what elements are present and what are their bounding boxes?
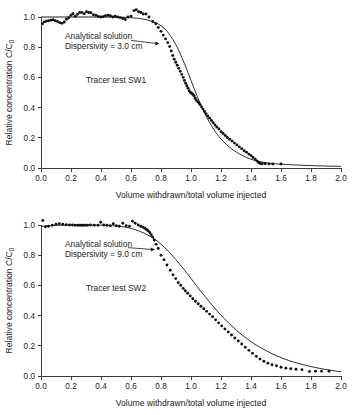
tracer-test-figure: 0.00.20.40.60.81.01.21.41.61.82.00.00.20… bbox=[0, 0, 362, 415]
data-point bbox=[271, 163, 274, 166]
svg-text:Relative concentration C/C0: Relative concentration C/C0 bbox=[4, 39, 15, 145]
data-point bbox=[251, 352, 254, 355]
data-point bbox=[109, 224, 112, 227]
data-point bbox=[214, 318, 217, 321]
y-tick-label: 0.2 bbox=[24, 342, 36, 351]
data-point bbox=[233, 142, 236, 145]
data-point bbox=[308, 370, 311, 373]
data-point bbox=[185, 84, 188, 87]
data-point bbox=[244, 346, 247, 349]
data-point bbox=[128, 225, 131, 228]
x-tick-label: 0.6 bbox=[125, 382, 137, 391]
data-point bbox=[160, 254, 163, 257]
data-point bbox=[205, 112, 208, 115]
data-point bbox=[102, 224, 105, 227]
data-point bbox=[145, 13, 148, 16]
data-point bbox=[176, 64, 179, 67]
data-point bbox=[68, 224, 71, 227]
data-point bbox=[83, 12, 86, 15]
x-tick-label: 1.6 bbox=[275, 174, 287, 183]
data-point bbox=[119, 16, 122, 19]
x-tick-label: 0.8 bbox=[155, 382, 167, 391]
x-tick-label: 0.0 bbox=[35, 382, 47, 391]
data-point bbox=[280, 163, 283, 166]
data-point bbox=[223, 327, 226, 330]
chart-panel-sw2: 0.00.20.40.60.81.01.21.41.61.82.00.00.20… bbox=[0, 208, 362, 415]
data-point bbox=[215, 125, 218, 128]
data-point bbox=[186, 292, 189, 295]
x-tick-label: 0.8 bbox=[155, 174, 167, 183]
data-point bbox=[237, 340, 240, 343]
y-tick-label: 0.6 bbox=[24, 73, 36, 82]
data-point bbox=[139, 11, 142, 14]
data-point bbox=[130, 15, 133, 18]
data-point bbox=[112, 222, 115, 225]
data-point bbox=[182, 76, 185, 79]
y-tick-label: 0.0 bbox=[24, 164, 36, 173]
data-point bbox=[238, 145, 241, 148]
y-axis-ticks: 0.00.20.40.60.81.0 bbox=[24, 221, 41, 381]
data-point bbox=[243, 149, 246, 152]
data-point bbox=[184, 82, 187, 85]
data-point bbox=[58, 222, 61, 225]
data-point bbox=[121, 17, 124, 20]
data-point bbox=[41, 219, 44, 222]
data-point bbox=[99, 221, 102, 224]
data-point bbox=[148, 16, 151, 19]
x-tick-label: 1.0 bbox=[185, 382, 197, 391]
y-tick-label: 1.0 bbox=[24, 221, 36, 230]
data-point bbox=[172, 273, 175, 276]
annotation-text: Dispersivity = 9.0 cm bbox=[65, 249, 143, 259]
data-point bbox=[151, 236, 154, 239]
data-point bbox=[177, 281, 180, 284]
data-point bbox=[177, 67, 180, 70]
data-point bbox=[118, 225, 121, 228]
data-point bbox=[174, 61, 177, 64]
data-point bbox=[55, 223, 58, 226]
annotation-text: Analytical solution bbox=[65, 239, 132, 249]
y-tick-label: 0.0 bbox=[24, 372, 36, 381]
x-axis-title: Volume withdrawn/total volume injected bbox=[116, 190, 267, 200]
y-tick-label: 0.8 bbox=[24, 251, 36, 260]
data-point bbox=[74, 15, 77, 18]
data-point bbox=[206, 114, 209, 117]
data-point bbox=[61, 223, 64, 226]
x-tick-label: 1.6 bbox=[275, 382, 287, 391]
y-axis-title: Relative concentration C/C0 bbox=[4, 39, 15, 145]
annotation-text: Tracer test SW2 bbox=[86, 283, 147, 293]
data-point bbox=[328, 370, 331, 373]
x-tick-label: 0.2 bbox=[65, 382, 77, 391]
data-point bbox=[71, 224, 74, 227]
x-tick-label: 0.2 bbox=[65, 174, 77, 183]
data-point bbox=[199, 305, 202, 308]
data-point bbox=[295, 368, 298, 371]
data-point bbox=[191, 297, 194, 300]
data-point bbox=[205, 310, 208, 313]
data-point bbox=[164, 37, 167, 40]
data-point bbox=[255, 355, 258, 358]
leader-arrowhead bbox=[151, 247, 155, 251]
data-point bbox=[44, 225, 47, 228]
data-point bbox=[240, 343, 243, 346]
data-point bbox=[212, 121, 215, 124]
data-point bbox=[240, 147, 243, 150]
data-point bbox=[76, 13, 79, 16]
data-point bbox=[89, 224, 92, 227]
x-tick-label: 1.8 bbox=[305, 174, 317, 183]
x-tick-label: 1.0 bbox=[185, 174, 197, 183]
data-point bbox=[320, 370, 323, 373]
y-tick-label: 0.4 bbox=[24, 104, 36, 113]
data-point bbox=[266, 362, 269, 365]
data-point bbox=[142, 13, 145, 16]
data-point bbox=[235, 144, 238, 147]
data-point bbox=[74, 224, 77, 227]
x-axis-title: Volume withdrawn/total volume injected bbox=[116, 398, 267, 408]
data-point bbox=[179, 70, 182, 73]
data-point bbox=[182, 287, 185, 290]
data-point bbox=[157, 247, 160, 250]
y-tick-label: 0.2 bbox=[24, 134, 36, 143]
data-point bbox=[284, 367, 287, 370]
data-point bbox=[208, 117, 211, 120]
data-point bbox=[106, 224, 109, 227]
chart-svg-sw2: 0.00.20.40.60.81.01.21.41.61.82.00.00.20… bbox=[0, 208, 362, 415]
